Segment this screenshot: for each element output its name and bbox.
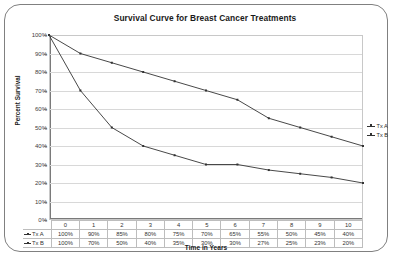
data-point-marker bbox=[205, 164, 207, 166]
legend-item[interactable]: Tx B bbox=[367, 130, 397, 139]
table-cell: 75% bbox=[164, 230, 192, 239]
table-cell: 80% bbox=[136, 230, 164, 239]
table-column-header: 1 bbox=[80, 221, 108, 230]
table-column-header: 2 bbox=[108, 221, 136, 230]
y-axis-tick-mark bbox=[44, 202, 47, 203]
y-axis-tick-mark bbox=[44, 109, 47, 110]
data-point-marker bbox=[362, 145, 364, 147]
series-marker-icon bbox=[24, 231, 31, 237]
data-point-marker bbox=[299, 173, 301, 175]
y-axis-tick-mark bbox=[44, 165, 47, 166]
series-layer bbox=[49, 35, 363, 220]
chart-screenshot: Survival Curve for Breast Cancer Treatme… bbox=[0, 0, 402, 260]
data-point-marker bbox=[174, 154, 176, 156]
table-cell: 100% bbox=[51, 230, 79, 239]
table-cell: 45% bbox=[306, 230, 334, 239]
table-column-header: 3 bbox=[136, 221, 164, 230]
data-point-marker bbox=[142, 145, 144, 147]
table-header-row: 012345678910 bbox=[23, 221, 363, 230]
chart-title: Survival Curve for Breast Cancer Treatme… bbox=[45, 13, 365, 23]
data-point-marker bbox=[299, 127, 301, 129]
y-axis-tick-mark bbox=[44, 54, 47, 55]
table-cell: 40% bbox=[334, 230, 362, 239]
table-column-header: 10 bbox=[334, 221, 362, 230]
y-axis-tick-mark bbox=[44, 128, 47, 129]
table-column-header: 7 bbox=[249, 221, 277, 230]
table-cell: 70% bbox=[193, 230, 221, 239]
chart-legend: Tx ATx B bbox=[367, 121, 397, 139]
table-column-header: 4 bbox=[164, 221, 192, 230]
table-cell: 55% bbox=[249, 230, 277, 239]
y-axis-tick-mark bbox=[44, 183, 47, 184]
legend-marker-icon bbox=[367, 132, 375, 138]
table-cell: 85% bbox=[108, 230, 136, 239]
chart-frame: Survival Curve for Breast Cancer Treatme… bbox=[4, 4, 388, 252]
legend-item[interactable]: Tx A bbox=[367, 121, 397, 130]
data-point-marker bbox=[79, 53, 81, 55]
data-point-marker bbox=[111, 127, 113, 129]
table-row-header: Tx B bbox=[23, 239, 51, 248]
data-point-marker bbox=[362, 182, 364, 184]
series-line bbox=[49, 35, 363, 183]
data-point-marker bbox=[236, 99, 238, 101]
data-point-marker bbox=[79, 90, 81, 92]
table-cell: 90% bbox=[80, 230, 108, 239]
table-cell: 50% bbox=[278, 230, 306, 239]
data-point-marker bbox=[48, 34, 50, 36]
data-point-marker bbox=[268, 117, 270, 119]
table-column-header: 5 bbox=[193, 221, 221, 230]
table-row: Tx A100%90%85%80%75%70%65%55%50%45%40% bbox=[23, 230, 363, 239]
table-column-header: 8 bbox=[278, 221, 306, 230]
table-column-header: 9 bbox=[306, 221, 334, 230]
y-axis-tick-mark bbox=[44, 35, 47, 36]
legend-marker-icon bbox=[367, 123, 375, 129]
x-axis-title: Time in Years bbox=[49, 244, 363, 251]
data-point-marker bbox=[331, 136, 333, 138]
y-axis-tick-mark bbox=[44, 72, 47, 73]
data-point-marker bbox=[205, 90, 207, 92]
data-point-marker bbox=[174, 80, 176, 82]
data-point-marker bbox=[268, 169, 270, 171]
table-row-label: Tx B bbox=[32, 239, 44, 247]
table-row-label: Tx A bbox=[32, 230, 44, 238]
data-point-marker bbox=[331, 176, 333, 178]
table-cell: 65% bbox=[221, 230, 249, 239]
data-point-marker bbox=[111, 62, 113, 64]
data-point-marker bbox=[236, 164, 238, 166]
series-marker-icon bbox=[24, 240, 31, 246]
y-axis-tick-labels: 100%90%80%70%60%50%40%30%20%10%0% bbox=[17, 35, 47, 220]
data-point-marker bbox=[142, 71, 144, 73]
y-axis-tick-mark bbox=[44, 146, 47, 147]
table-row-header: Tx A bbox=[23, 230, 51, 239]
y-axis-tick-mark bbox=[44, 91, 47, 92]
table-column-header: 6 bbox=[221, 221, 249, 230]
legend-label: Tx B bbox=[377, 132, 389, 138]
legend-label: Tx A bbox=[377, 123, 388, 129]
table-corner-cell bbox=[23, 221, 51, 230]
table-column-header: 0 bbox=[51, 221, 79, 230]
